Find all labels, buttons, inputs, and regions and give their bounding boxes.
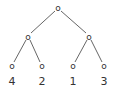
edge-root-right [61,11,86,33]
edge-left-leaf1 [14,40,26,62]
edge-left-leaf2 [30,40,40,62]
right-node: o [86,32,92,42]
left-node: o [25,32,31,42]
leaf-node-4: o [101,61,107,71]
leaf-label-2: 2 [39,75,46,88]
leaf-node-2: o [39,61,45,71]
leaf-node-3: o [70,61,76,71]
edge-right-leaf3 [75,40,87,62]
leaf-label-1: 4 [9,75,16,88]
leaf-node-1: o [9,61,15,71]
edge-right-leaf4 [91,40,102,62]
edge-root-left [31,11,55,33]
leaf-label-4: 3 [101,75,108,88]
binary-tree-diagram: o o o o o o o 4 2 1 3 [0,0,118,95]
leaf-label-3: 1 [70,75,77,88]
leaf-labels: 4 2 1 3 [9,75,108,88]
nodes: o o o o o o o [9,3,107,71]
root-node: o [55,3,61,13]
